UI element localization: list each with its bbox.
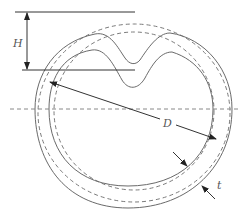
- thickness-arrow-inner: [173, 152, 187, 166]
- thickness-label: t: [217, 179, 222, 192]
- outer-deformed-outline: [35, 33, 232, 208]
- deformed-ring-diagram: H D t: [0, 0, 244, 217]
- outer-dashed-circle: [38, 24, 230, 202]
- diameter-arrow-left: [50, 82, 160, 119]
- thickness-arrow-outer: [202, 186, 215, 199]
- inner-dashed-circle: [54, 32, 214, 190]
- diameter-label: D: [162, 117, 172, 130]
- height-label: H: [12, 37, 23, 50]
